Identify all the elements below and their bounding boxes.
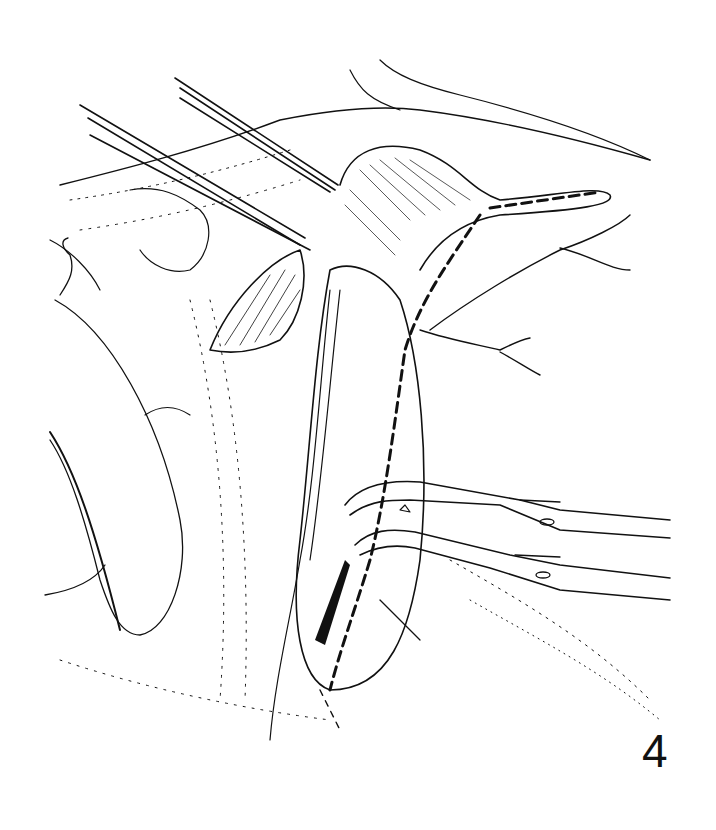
forceps-upper xyxy=(80,78,338,250)
retractor-blade xyxy=(45,238,190,635)
surgical-illustration xyxy=(0,0,716,830)
tissue-cavity xyxy=(210,250,304,352)
clamp-forceps xyxy=(345,482,670,600)
incised-flap xyxy=(296,215,480,730)
figure-number: 4 xyxy=(642,728,668,774)
tissue-shadow xyxy=(315,560,350,645)
vessels xyxy=(270,215,630,740)
